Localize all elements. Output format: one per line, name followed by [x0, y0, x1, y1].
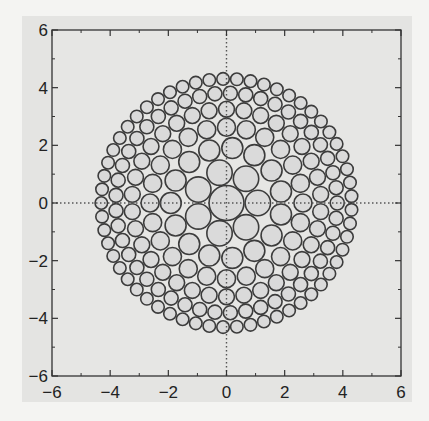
packed-circle: [313, 254, 327, 268]
packed-circle: [165, 170, 186, 191]
packed-circle: [244, 319, 257, 332]
y-tick-label: 6: [39, 21, 48, 40]
packed-circle: [164, 307, 177, 320]
packed-circle: [190, 76, 203, 89]
packed-circle: [294, 297, 307, 310]
packed-circle: [281, 105, 295, 119]
packed-circle: [272, 248, 290, 266]
packed-circle: [155, 264, 171, 280]
packed-circle: [96, 183, 109, 196]
x-tick-label: 6: [396, 383, 405, 402]
packed-circle: [115, 234, 129, 248]
packed-circle: [198, 267, 216, 285]
packed-circle: [244, 75, 257, 88]
packed-circle: [294, 252, 310, 268]
packed-circle: [341, 231, 354, 244]
packed-circle: [207, 221, 232, 246]
packed-circle: [291, 214, 309, 232]
packed-circle: [193, 89, 207, 103]
packed-circle: [140, 272, 154, 286]
packed-circle: [178, 298, 192, 312]
packed-circle: [98, 170, 111, 183]
packed-circle: [163, 140, 181, 158]
packed-circle: [102, 156, 115, 169]
packed-circle: [121, 121, 134, 134]
y-tick-label: 0: [39, 194, 48, 213]
packed-circle: [96, 210, 109, 223]
packed-circle: [253, 108, 269, 124]
packed-circle: [321, 151, 335, 165]
packed-circle: [201, 103, 217, 119]
packed-circle: [323, 126, 336, 139]
packed-circle: [199, 140, 220, 161]
packed-circle: [186, 177, 211, 202]
packed-circle: [271, 310, 284, 323]
packed-circle: [186, 204, 211, 229]
packed-circle: [151, 156, 169, 174]
packed-circle: [304, 267, 318, 281]
packed-circle: [143, 139, 159, 155]
packed-circle: [114, 132, 127, 145]
packed-circle: [124, 204, 140, 220]
packed-circle: [315, 278, 328, 291]
packed-circle: [231, 73, 244, 86]
packed-circle: [291, 174, 309, 192]
packed-circle: [128, 221, 144, 237]
y-tick-label: −6: [29, 367, 48, 386]
packed-circle: [310, 169, 326, 185]
packed-circle: [198, 121, 216, 139]
packed-circle: [98, 224, 111, 237]
packed-circle: [179, 151, 200, 172]
packed-circle: [261, 225, 282, 246]
packed-circle: [258, 315, 271, 328]
packed-circle: [345, 204, 358, 217]
packed-circle: [179, 260, 197, 278]
packed-circle: [169, 115, 185, 131]
packed-circle: [313, 186, 329, 202]
packed-circle: [222, 138, 243, 159]
packed-circle: [144, 214, 162, 232]
packed-circle: [345, 190, 358, 203]
packed-circle: [281, 287, 295, 301]
packed-circle: [284, 232, 302, 250]
packed-circle: [272, 140, 290, 158]
packed-circle: [236, 287, 252, 303]
packed-circle: [201, 287, 217, 303]
packed-circle: [336, 243, 349, 256]
packed-circle: [152, 301, 165, 314]
packed-circle: [203, 320, 216, 333]
packed-circle: [256, 128, 274, 146]
packed-circle: [270, 181, 291, 202]
y-tick-label: −2: [29, 252, 48, 271]
packed-circle: [130, 261, 144, 275]
packed-circle: [114, 262, 127, 275]
packed-circle: [321, 241, 335, 255]
packed-circle: [199, 245, 220, 266]
packed-circle: [160, 193, 181, 214]
packed-circle: [203, 74, 216, 87]
packed-circle: [253, 283, 269, 299]
packed-circle: [102, 237, 115, 250]
packed-circle: [254, 92, 268, 106]
packed-circle: [107, 250, 120, 263]
packed-circle: [305, 288, 318, 301]
x-tick-label: 0: [222, 383, 231, 402]
packed-circle: [244, 240, 265, 261]
packed-circle: [217, 321, 230, 334]
packed-circle: [217, 73, 230, 86]
packed-circle: [179, 234, 200, 255]
packed-circle: [155, 126, 171, 142]
packed-circle: [329, 211, 343, 225]
y-tick-label: 4: [39, 79, 48, 98]
packed-circle: [237, 121, 255, 139]
packed-circle: [326, 226, 340, 240]
packed-circle: [165, 215, 186, 236]
packed-circle: [130, 131, 144, 145]
packed-circle: [164, 86, 177, 99]
packed-circle: [283, 304, 296, 317]
packed-circle: [109, 188, 123, 202]
packed-circle: [151, 109, 165, 123]
packed-circle: [304, 125, 318, 139]
packed-circle: [344, 176, 357, 189]
y-axis-tick-labels: −6−4−20246: [29, 21, 48, 386]
